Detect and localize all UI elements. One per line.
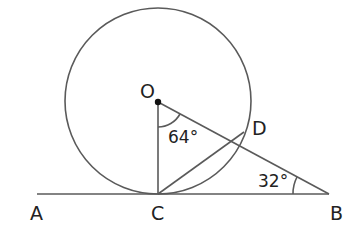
geometry-diagram: O D A C B 64° 32° [0, 0, 362, 225]
angle-label-obc: 32° [258, 171, 288, 191]
label-c: C [151, 202, 164, 224]
center-point-o [155, 99, 161, 105]
angle-label-cod: 64° [168, 127, 198, 147]
label-b: B [330, 202, 343, 224]
label-d: D [252, 117, 267, 139]
label-a: A [30, 202, 43, 224]
angle-arc-cod [158, 114, 180, 127]
segment-ob [158, 102, 329, 194]
angle-arc-obc [293, 177, 297, 194]
label-o: O [140, 80, 155, 102]
